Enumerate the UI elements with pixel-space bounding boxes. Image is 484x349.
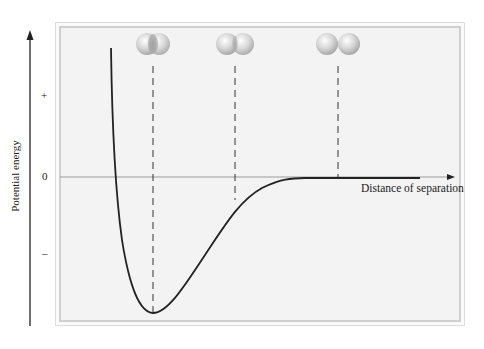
x-axis [60, 174, 455, 180]
y-tick-minus: – [42, 247, 48, 259]
y-axis-label: Potential energy [9, 136, 21, 216]
y-tick-zero: 0 [42, 170, 48, 182]
x-axis-label: Distance of separation [361, 182, 464, 194]
arrow-right-icon [447, 174, 455, 180]
potential-energy-curve [111, 48, 420, 313]
arrow-up-icon [27, 30, 34, 40]
atom-pair-separated [316, 33, 360, 55]
atom-pair-strong-overlap [136, 33, 170, 55]
distance-markers [153, 66, 338, 312]
y-axis [27, 30, 34, 326]
potential-energy-diagram [0, 0, 484, 349]
atom-pair-slight-overlap [216, 33, 254, 55]
y-tick-plus: + [41, 89, 47, 101]
